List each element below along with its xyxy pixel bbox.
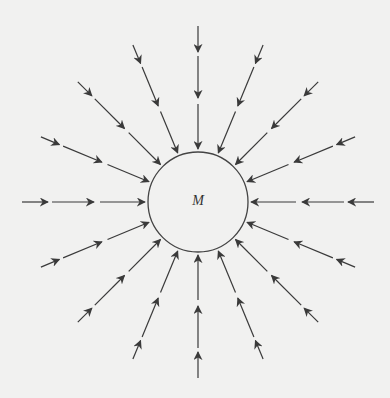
field-arrow xyxy=(142,67,158,106)
field-arrow xyxy=(238,298,254,337)
field-arrow xyxy=(304,308,318,322)
field-arrow xyxy=(304,82,318,96)
field-arrow xyxy=(129,240,161,272)
field-arrow xyxy=(247,222,289,239)
field-line xyxy=(41,137,149,182)
field-line xyxy=(133,251,178,359)
field-arrow xyxy=(218,251,235,293)
field-line xyxy=(247,222,355,267)
field-arrow xyxy=(63,242,102,258)
field-arrow xyxy=(337,137,356,145)
field-arrow xyxy=(41,259,60,267)
field-arrow xyxy=(255,45,263,64)
field-arrow xyxy=(142,298,158,337)
field-arrow xyxy=(95,276,125,306)
gravitational-field-diagram: M xyxy=(0,0,390,398)
field-arrow xyxy=(236,240,268,272)
field-line xyxy=(78,82,161,165)
field-arrow xyxy=(337,259,356,267)
field-line xyxy=(247,137,355,182)
field-arrow xyxy=(218,112,235,154)
field-line xyxy=(78,240,161,323)
field-arrow xyxy=(41,137,60,145)
field-line xyxy=(41,222,149,267)
field-arrow xyxy=(63,146,102,162)
field-line xyxy=(218,45,263,153)
field-arrow xyxy=(78,82,92,96)
field-arrow xyxy=(95,99,125,129)
field-arrow xyxy=(133,341,141,360)
field-arrow xyxy=(255,341,263,360)
field-line xyxy=(133,45,178,153)
field-arrow xyxy=(161,112,178,154)
field-arrow xyxy=(247,165,289,182)
field-arrow xyxy=(161,251,178,293)
field-arrow xyxy=(236,133,268,165)
field-arrow xyxy=(108,165,150,182)
field-line xyxy=(236,82,319,165)
field-arrow xyxy=(133,45,141,64)
field-arrow xyxy=(294,242,333,258)
field-line xyxy=(218,251,263,359)
field-arrow xyxy=(78,308,92,322)
field-arrow xyxy=(108,222,150,239)
field-arrow xyxy=(272,276,302,306)
mass-label: M xyxy=(188,193,208,209)
field-arrow xyxy=(294,146,333,162)
field-arrow xyxy=(272,99,302,129)
field-arrow xyxy=(238,67,254,106)
field-line xyxy=(236,240,319,323)
field-arrow xyxy=(129,133,161,165)
